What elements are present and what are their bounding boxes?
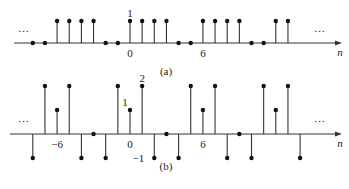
stem-marker	[164, 19, 168, 23]
value-label: 1	[122, 96, 128, 108]
stem-marker	[176, 156, 180, 160]
stem-marker	[55, 19, 59, 23]
stem-marker	[213, 19, 217, 23]
stem-marker	[67, 19, 71, 23]
stem-marker	[31, 156, 35, 160]
value-label: −1	[132, 152, 144, 164]
tick-label: 0	[127, 47, 133, 59]
panel-caption: (a)	[160, 65, 173, 78]
stem-marker	[164, 132, 168, 136]
stem-marker	[261, 84, 265, 88]
stem-marker	[31, 41, 35, 45]
stem-marker	[55, 108, 59, 112]
stem-marker	[128, 108, 132, 112]
value-label: 2	[139, 72, 145, 84]
periodic-sequences-diagram: n……061(a) n……−60612−1(b)	[0, 0, 349, 189]
stem-marker	[116, 84, 120, 88]
stem-marker	[213, 84, 217, 88]
panel-caption: (b)	[160, 160, 173, 173]
stem-marker	[225, 156, 229, 160]
value-label: 1	[127, 7, 133, 19]
stem-marker	[104, 156, 108, 160]
stem-marker	[104, 41, 108, 45]
stem-marker	[249, 156, 253, 160]
stem-marker	[128, 19, 132, 23]
panel-b: n……−60612−1(b)	[10, 72, 343, 173]
stem-marker	[116, 41, 120, 45]
stem-marker	[152, 156, 156, 160]
ellipsis-left: …	[18, 112, 29, 124]
tick-label: 0	[127, 138, 133, 150]
stem-marker	[225, 19, 229, 23]
axis-label: n	[337, 137, 343, 149]
stem-marker	[79, 19, 83, 23]
stem-marker	[286, 84, 290, 88]
stem-marker	[140, 19, 144, 23]
stem-marker	[91, 19, 95, 23]
stem-marker	[274, 108, 278, 112]
tick-label: −6	[51, 138, 63, 150]
stem-marker	[176, 41, 180, 45]
stem-marker	[286, 19, 290, 23]
stem-marker	[201, 108, 205, 112]
stem-marker	[189, 84, 193, 88]
ellipsis-left: …	[18, 22, 29, 34]
stem-marker	[91, 132, 95, 136]
tick-label: 6	[200, 138, 206, 150]
stem-marker	[79, 156, 83, 160]
stem-marker	[140, 84, 144, 88]
stem-marker	[274, 19, 278, 23]
axis-arrow-icon	[335, 41, 342, 46]
ellipsis-right: …	[314, 112, 325, 124]
stem-marker	[43, 84, 47, 88]
stem-marker	[237, 19, 241, 23]
ellipsis-right: …	[314, 22, 325, 34]
axis-arrow-icon	[335, 132, 342, 137]
stem-marker	[67, 84, 71, 88]
tick-label: 6	[200, 47, 206, 59]
stem-marker	[237, 132, 241, 136]
stem-marker	[152, 19, 156, 23]
panel-a: n……061(a)	[14, 7, 343, 78]
stem-marker	[298, 156, 302, 160]
stem-marker	[43, 41, 47, 45]
axis-label: n	[337, 46, 343, 58]
stem-marker	[189, 41, 193, 45]
stem-marker	[201, 19, 205, 23]
stem-marker	[261, 41, 265, 45]
stem-marker	[249, 41, 253, 45]
